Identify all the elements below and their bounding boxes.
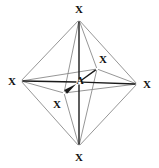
atom-label-x-left: X [8,76,16,87]
polyhedron-edge [80,21,136,83]
polyhedron-edge [80,21,97,67]
polyhedron-edge [22,21,78,80]
polyhedron-edge [80,85,136,145]
atom-label-a-center: A [76,76,83,86]
bond-line [82,82,135,84]
bond-line [23,81,76,82]
atom-label-x-back: X [99,54,107,65]
atom-label-x-top: X [75,4,83,15]
molecular-structure-diagram: XXXXXXA [0,0,159,168]
atom-label-x-bottom: X [75,152,83,163]
atom-label-x-right: X [143,79,151,90]
polyhedron-edge [22,69,95,81]
polyhedron-edge [22,81,62,92]
atom-label-x-front: X [53,99,61,110]
